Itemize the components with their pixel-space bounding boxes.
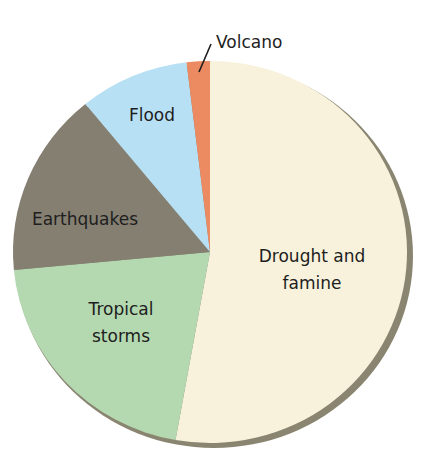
label-earthquakes: Earthquakes	[32, 209, 138, 229]
pie-chart: Volcano Flood Earthquakes Tropical storm…	[0, 0, 425, 470]
label-tropical-line1: Tropical	[88, 299, 154, 319]
label-flood: Flood	[129, 105, 175, 125]
label-volcano: Volcano	[216, 32, 282, 52]
label-drought-line2: famine	[283, 273, 342, 293]
label-tropical-line2: storms	[92, 326, 150, 346]
pie-slice-tropical-storms	[14, 252, 210, 440]
label-drought-line1: Drought and	[259, 246, 366, 266]
